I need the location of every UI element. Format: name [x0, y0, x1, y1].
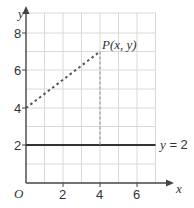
axes — [26, 10, 170, 183]
x-tick-2: 2 — [59, 187, 66, 202]
y-tick-2: 2 — [14, 138, 21, 153]
y-tick-6: 6 — [14, 63, 21, 78]
y-axis-label: y — [16, 6, 24, 21]
y-tick-4: 4 — [14, 101, 21, 116]
x-tick-6: 6 — [133, 187, 140, 202]
x-axis-arrow-icon — [166, 180, 174, 187]
point-p-label: P(x, y) — [101, 37, 137, 52]
x-tick-4: 4 — [96, 187, 103, 202]
y-tick-8: 8 — [14, 26, 21, 41]
origin-label: O — [14, 186, 24, 201]
x-axis-label: x — [175, 181, 182, 196]
coordinate-diagram: y x O 8 6 4 2 2 4 6 P(x, y) y = 2 — [0, 0, 194, 208]
line-label-eq: = 2 — [166, 137, 188, 152]
line-label: y = 2 — [158, 137, 188, 152]
